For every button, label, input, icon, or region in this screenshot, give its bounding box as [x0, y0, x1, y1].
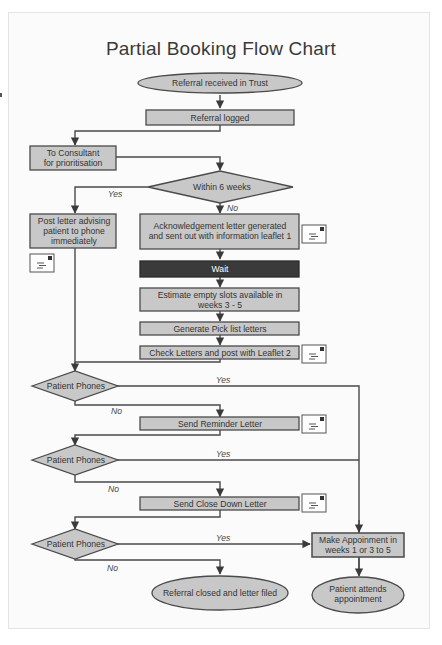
node-label: Referral received in Trust	[172, 78, 269, 88]
node-to-consultant: To Consultant for prioritisation	[30, 146, 116, 170]
node-label: Post letter advising	[38, 216, 111, 226]
node-label: Check Letters and post with Leaflet 2	[149, 348, 291, 358]
edge-label-yes: Yes	[216, 449, 231, 459]
letter-envelope-icon	[30, 254, 54, 272]
node-label: Send Reminder Letter	[178, 419, 262, 429]
node-send-reminder: Send Reminder Letter	[140, 417, 299, 430]
node-wait: Wait	[140, 261, 299, 277]
node-ack-letter: Acknowledgement letter generated and sen…	[140, 214, 299, 249]
letter-envelope-icon	[302, 494, 326, 512]
edge-phones-2-no	[75, 475, 220, 496]
edge-label-yes: Yes	[216, 375, 231, 385]
edge-consultant-to-decision	[116, 157, 220, 170]
letter-envelope-icon	[302, 345, 326, 363]
node-generate-pick: Generate Pick list letters	[140, 322, 299, 335]
edge-close-to-phones-3	[75, 509, 220, 529]
edge-label-no: No	[111, 406, 122, 416]
edge-label-no: No	[227, 203, 238, 213]
edge-logged-to-consultant	[75, 124, 220, 145]
flowchart: Referral received in Trust Referral logg…	[0, 0, 442, 645]
node-label: Send Close Down Letter	[173, 499, 266, 509]
letter-envelope-icon	[302, 415, 326, 433]
node-patient-phones-1: Patient Phones	[32, 371, 118, 401]
node-referral-closed: Referral closed and letter filed	[152, 576, 288, 610]
node-patient-attends: Patient attends appointment	[312, 577, 404, 613]
node-label: Wait	[212, 264, 229, 274]
node-label: To Consultant	[47, 148, 100, 158]
node-label: weeks 3 - 5	[197, 300, 242, 310]
edge-label-no: No	[108, 484, 119, 494]
edge-reminder-to-phones-2	[75, 430, 220, 445]
node-check-letters: Check Letters and post with Leaflet 2	[140, 346, 299, 359]
letter-envelope-icon	[302, 225, 326, 243]
node-patient-phones-3: Patient Phones	[32, 529, 118, 559]
node-label: and sent out with information leaflet 1	[149, 231, 292, 241]
edge-label-yes: Yes	[216, 533, 231, 543]
edge-phones-1-no	[75, 401, 220, 417]
edge-label-yes: Yes	[108, 189, 123, 199]
node-label: Estimate empty slots available in	[158, 290, 283, 300]
node-label: Patient Phones	[47, 381, 105, 391]
node-label: Referral closed and letter filed	[163, 588, 277, 598]
node-patient-phones-2: Patient Phones	[32, 445, 118, 475]
node-within-6-weeks: Within 6 weeks	[148, 171, 293, 203]
node-label: for prioritisation	[44, 158, 103, 168]
node-label: Referral logged	[191, 113, 250, 123]
node-label: Patient Phones	[47, 539, 105, 549]
node-label: appointment	[334, 594, 382, 604]
edge-phones-3-no	[75, 559, 220, 574]
node-estimate-slots: Estimate empty slots available in weeks …	[140, 288, 299, 311]
node-label: Patient attends	[329, 584, 386, 594]
node-send-close-down: Send Close Down Letter	[140, 497, 299, 510]
node-label: weeks 1 or 3 to 5	[324, 545, 391, 555]
node-referral-logged: Referral logged	[146, 110, 294, 125]
node-referral-received: Referral received in Trust	[138, 73, 302, 93]
node-label: Patient Phones	[47, 455, 105, 465]
node-label: Within 6 weeks	[193, 182, 251, 192]
node-label: Acknowledgement letter generated	[154, 221, 287, 231]
edge-label-no: No	[107, 563, 118, 573]
node-label: Generate Pick list letters	[173, 324, 266, 334]
node-label: patient to phone	[43, 226, 105, 236]
node-label: immediately	[51, 236, 98, 246]
node-make-appointment: Make Appoinment in weeks 1 or 3 to 5	[312, 533, 404, 557]
node-post-letter: Post letter advising patient to phone im…	[30, 214, 116, 248]
node-label: Make Appoinment in	[319, 535, 397, 545]
